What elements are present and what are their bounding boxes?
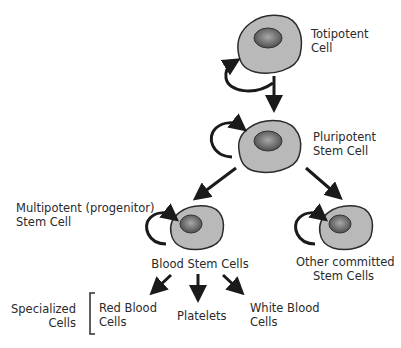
label-line: Totipotent [311,27,369,41]
arrow-to-red-blood-cells [156,275,171,289]
label-red-blood-cells: Red Blood Cells [99,301,157,329]
label-line: Multipotent (progenitor) [16,201,154,215]
label-white-blood-cells: White Blood Cells [250,301,320,329]
label-blood-stem-cells: Blood Stem Cells [150,257,250,271]
label-line: Stem Cell [16,215,154,229]
label-line: Cells [99,315,157,329]
arrow-to-white-blood-cells [223,275,238,289]
label-specialized-cells: Specialized Cells [4,302,76,330]
label-line: Stem Cell [313,144,376,158]
label-line: White Blood [250,301,320,315]
label-line: Cells [250,315,320,329]
label-line: Other committed [296,255,391,269]
label-pluripotent: Pluripotent Stem Cell [313,130,376,158]
pluripotent-cell [239,121,301,173]
label-line: Red Blood [99,301,157,315]
arrow-pluripotent-to-multipotent [200,168,236,195]
other-committed-cell [320,206,373,250]
label-line: Pluripotent [313,130,376,144]
arrow-pluripotent-to-other [306,168,336,194]
label-platelets: Platelets [177,309,227,323]
self-renewal-arrow-pluripotent [211,123,240,157]
self-renewal-arrow-other [296,213,321,244]
multipotent-cell [171,206,224,250]
label-other-committed: Other committed Stem Cells [296,255,391,283]
label-line: Stem Cells [296,269,391,283]
totipotent-cell [238,15,302,73]
label-totipotent: Totipotent Cell [311,27,369,55]
specialized-bracket [90,293,95,334]
label-multipotent: Multipotent (progenitor) Stem Cell [16,201,154,229]
label-line: Cells [4,316,76,330]
label-line: Specialized [4,302,76,316]
label-line: Cell [311,41,369,55]
